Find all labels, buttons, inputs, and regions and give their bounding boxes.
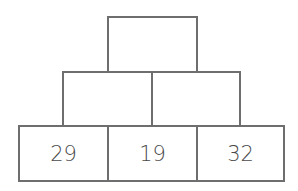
pyramid-bottom-right-cell: 32 xyxy=(196,125,285,182)
pyramid-bottom-middle-cell: 19 xyxy=(107,125,198,182)
pyramid-top-cell xyxy=(107,16,198,73)
pyramid-bottom-left-cell: 29 xyxy=(18,125,109,182)
pyramid-middle-right-cell xyxy=(151,71,241,127)
pyramid-middle-left-cell xyxy=(62,71,153,127)
